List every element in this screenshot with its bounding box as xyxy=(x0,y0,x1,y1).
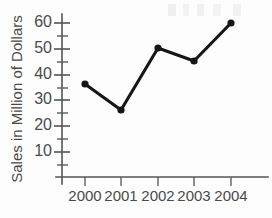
x-axis-ticks xyxy=(85,177,231,186)
y-tick-label-30: 30 xyxy=(34,90,52,107)
data-point-2004 xyxy=(227,19,234,26)
y-tick-label-50: 50 xyxy=(34,39,52,56)
y-tick-label-60: 60 xyxy=(34,13,52,30)
x-tick-label-2003: 2003 xyxy=(177,187,210,204)
sales-line xyxy=(85,23,231,110)
x-tick-label-2000: 2000 xyxy=(68,187,101,204)
y-tick-label-40: 40 xyxy=(34,65,52,82)
chart-figure: 60 50 40 30 20 10 2000 2001 2002 2003 20… xyxy=(0,0,272,218)
line-chart-plot: 60 50 40 30 20 10 2000 2001 2002 2003 20… xyxy=(0,0,272,218)
x-tick-label-2001: 2001 xyxy=(104,187,137,204)
data-point-2002 xyxy=(154,44,161,51)
x-tick-label-2004: 2004 xyxy=(214,187,247,204)
y-axis-title: Sales in Million of Dollars xyxy=(8,15,25,183)
data-point-2003 xyxy=(190,57,197,64)
x-tick-label-2002: 2002 xyxy=(141,187,174,204)
y-tick-label-10: 10 xyxy=(34,142,52,159)
data-point-2001 xyxy=(117,106,124,113)
y-tick-label-20: 20 xyxy=(34,116,52,133)
data-point-2000 xyxy=(81,80,88,87)
